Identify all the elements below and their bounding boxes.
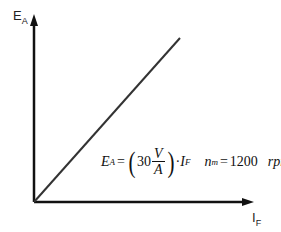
ea-vs-if-line — [34, 38, 180, 202]
plot-area — [0, 0, 281, 232]
x-axis-arrow-icon — [242, 198, 254, 206]
diagram: EA IF EA = ( 30 VA ) · IF nm = 1200 rpm — [0, 0, 281, 232]
x-axis-label: IF — [252, 210, 261, 228]
equation: EA = ( 30 VA ) · IF nm = 1200 rpm — [101, 146, 281, 177]
y-axis-label: EA — [13, 8, 28, 26]
y-axis-arrow-icon — [30, 14, 38, 26]
